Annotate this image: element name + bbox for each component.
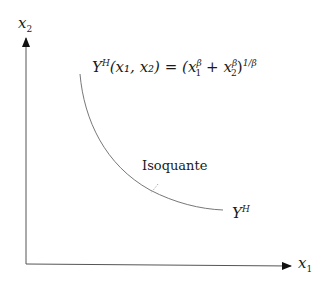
eq-plus: +: [201, 58, 223, 76]
eq-outer-exp: 1/β: [243, 58, 257, 68]
eq-Y: Y: [92, 58, 102, 76]
eq-Y-sup: H: [102, 58, 110, 68]
end-Y-sup: H: [242, 204, 250, 214]
production-function-equation: YH(x₁, x₂) = (xβ1 + xβ2)1/β: [92, 58, 257, 76]
end-Y: Y: [232, 204, 242, 222]
y-axis-sub: 2: [26, 24, 32, 34]
x-axis: [26, 264, 291, 266]
isoquant-curve: [80, 74, 223, 210]
isoquant-label: Isoquante: [142, 158, 207, 173]
diagram-graphics: [0, 0, 329, 288]
isoquant-diagram: x2 x1 YH(x₁, x₂) = (xβ1 + xβ2)1/β Isoqua…: [0, 0, 329, 288]
x-axis-sub: 1: [306, 264, 312, 274]
y-axis-label: x2: [18, 14, 32, 32]
eq-args: (x₁, x₂) = (: [110, 58, 188, 76]
x-axis-label: x1: [298, 254, 312, 272]
isoquant-leader-line: [151, 184, 158, 193]
curve-end-label: YH: [232, 204, 250, 222]
